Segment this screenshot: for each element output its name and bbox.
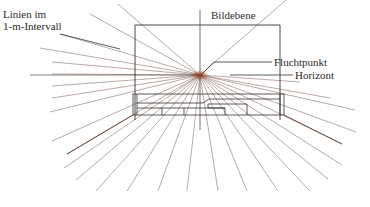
label-horizon: Horizont [295, 69, 334, 81]
label-image-plane: Bildebene [211, 9, 256, 21]
vanishing-point-marker [191, 70, 209, 80]
floor-edge-right [284, 115, 342, 144]
perspective-diagram: Linien im 1-m-Intervall Bildebene Flucht… [0, 0, 370, 207]
floor-edge-left [67, 115, 133, 154]
perspective-rays [40, 0, 356, 191]
label-lines-interval-line1: Linien im [3, 8, 62, 20]
label-vanishing-point: Fluchtpunkt [274, 56, 327, 68]
label-lines-interval-line2: 1-m-Intervall [3, 20, 62, 32]
label-lines-interval: Linien im 1-m-Intervall [3, 8, 62, 32]
